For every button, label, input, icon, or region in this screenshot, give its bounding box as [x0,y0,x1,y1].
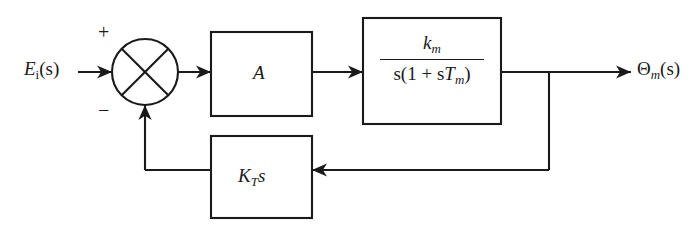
summing-junction-minus-label: − [98,100,109,120]
plant-numerator: km [372,33,492,59]
block-diagram-canvas: Ei(s) Θm(s) + − A KTs km s(1 + sTm) [0,0,696,227]
feedback-block-label: KTs [238,166,265,189]
output-signal-label: Θm(s) [637,59,680,82]
summing-junction-plus-label: + [98,22,109,42]
input-signal-label: Ei(s) [24,59,59,82]
plant-block-transfer-function: km s(1 + sTm) [372,33,492,87]
gain-block-label: A [253,63,265,82]
plant-denominator: s(1 + sTm) [372,60,492,87]
